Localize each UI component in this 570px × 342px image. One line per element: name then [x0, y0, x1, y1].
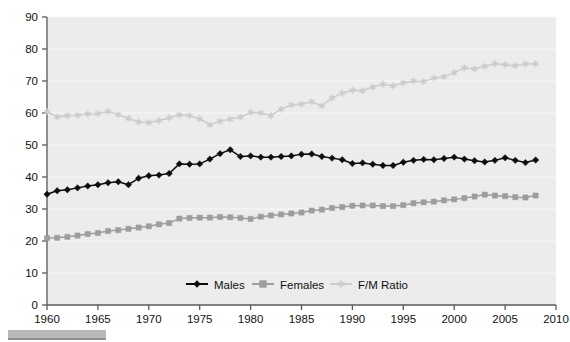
data-point-marker [503, 194, 508, 199]
data-point-marker [65, 234, 70, 239]
data-point-marker [167, 220, 172, 225]
line-chart: 0102030405060708090 19601965197019751980… [0, 0, 570, 342]
data-point-marker [533, 193, 538, 198]
data-point-marker [309, 208, 314, 213]
data-point-marker [360, 203, 365, 208]
data-point-marker [187, 215, 192, 220]
y-tick-label: 70 [25, 75, 38, 87]
data-point-marker [95, 230, 100, 235]
data-point-marker [370, 203, 375, 208]
data-point-marker [105, 228, 110, 233]
x-tick-label: 1985 [289, 313, 315, 325]
chart-container: 0102030405060708090 19601965197019751980… [0, 0, 570, 342]
y-tick-label: 90 [25, 11, 38, 23]
data-point-marker [492, 193, 497, 198]
data-point-marker [329, 205, 334, 210]
data-point-marker [319, 207, 324, 212]
y-tick-label: 0 [32, 299, 38, 311]
data-point-marker [126, 226, 131, 231]
data-point-marker [380, 204, 385, 209]
x-tick-label: 1995 [391, 313, 417, 325]
data-point-marker [258, 214, 263, 219]
data-point-marker [391, 204, 396, 209]
data-point-marker [452, 197, 457, 202]
data-point-marker [289, 211, 294, 216]
y-tick-label: 60 [25, 107, 38, 119]
data-point-marker [156, 222, 161, 227]
x-tick-label: 2005 [492, 313, 518, 325]
data-point-marker [462, 196, 467, 201]
data-point-marker [85, 231, 90, 236]
legend-label: F/M Ratio [358, 279, 408, 291]
legend-label: Males [214, 279, 245, 291]
x-tick-label: 1980 [238, 313, 264, 325]
caption-strip-shadow [8, 338, 106, 340]
y-tick-label: 40 [25, 171, 38, 183]
data-point-marker [513, 195, 518, 200]
data-point-marker [207, 215, 212, 220]
data-point-marker [279, 212, 284, 217]
data-point-marker [421, 200, 426, 205]
x-tick-label: 1975 [187, 313, 213, 325]
chart-legend: MalesFemalesF/M Ratio [186, 279, 408, 291]
data-point-marker [248, 216, 253, 221]
data-point-marker [75, 233, 80, 238]
legend-label: Females [280, 279, 324, 291]
data-point-marker [340, 204, 345, 209]
data-point-marker [146, 224, 151, 229]
x-tick-label: 1990 [340, 313, 366, 325]
x-tick-label: 1960 [34, 313, 60, 325]
data-point-marker [177, 216, 182, 221]
x-tick-label: 1970 [136, 313, 162, 325]
data-point-marker [523, 195, 528, 200]
y-tick-label: 10 [25, 267, 38, 279]
data-point-marker [44, 236, 49, 241]
data-point-marker [55, 235, 60, 240]
data-point-marker [411, 201, 416, 206]
y-tick-label: 50 [25, 139, 38, 151]
y-tick-label: 80 [25, 43, 38, 55]
y-tick-label: 20 [25, 235, 38, 247]
data-point-marker [299, 210, 304, 215]
data-point-marker [197, 215, 202, 220]
data-point-marker [431, 199, 436, 204]
x-tick-label: 2000 [441, 313, 467, 325]
legend-marker-icon [260, 281, 267, 288]
data-point-marker [217, 214, 222, 219]
data-point-marker [441, 198, 446, 203]
data-point-marker [268, 213, 273, 218]
data-point-marker [482, 192, 487, 197]
data-point-marker [350, 203, 355, 208]
y-tick-label: 30 [25, 203, 38, 215]
x-tick-label: 2010 [543, 313, 569, 325]
data-point-marker [472, 194, 477, 199]
x-tick-label: 1965 [85, 313, 111, 325]
data-point-marker [228, 215, 233, 220]
data-point-marker [116, 228, 121, 233]
data-point-marker [238, 215, 243, 220]
data-point-marker [401, 203, 406, 208]
data-point-marker [136, 225, 141, 230]
